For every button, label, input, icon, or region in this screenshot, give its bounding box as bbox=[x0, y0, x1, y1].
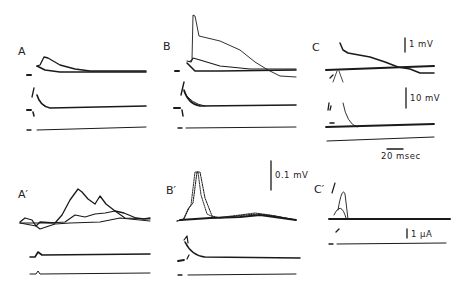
panel-a-prime-traces bbox=[20, 189, 150, 274]
scale-label-1mv: 1 mV bbox=[409, 39, 433, 49]
panel-label-c-prime: C′ bbox=[314, 183, 324, 196]
scale-label-0-1mv: 0.1 mV bbox=[275, 170, 308, 180]
panel-label-b: B bbox=[163, 40, 171, 53]
scale-label-10mv: 10 mV bbox=[410, 93, 440, 103]
panel-label-a-prime: A′ bbox=[18, 188, 28, 201]
panel-a-traces bbox=[27, 57, 146, 130]
scale-label-1ua: 1 µA bbox=[411, 229, 432, 239]
panel-label-b-prime: B′ bbox=[166, 184, 176, 197]
scale-label-20ms: 20 msec bbox=[381, 151, 421, 161]
electrophysiology-traces bbox=[0, 0, 468, 289]
panel-label-c: C bbox=[312, 41, 320, 54]
panel-label-a: A bbox=[18, 45, 26, 58]
panel-b-traces bbox=[174, 15, 296, 128]
